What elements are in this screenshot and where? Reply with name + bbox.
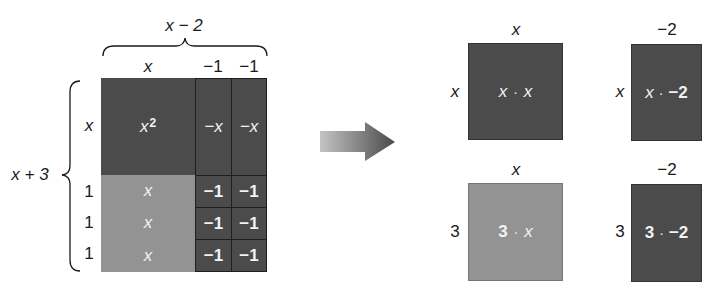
box2-side-label: x bbox=[611, 82, 629, 102]
column-label-neg1-b: −1 bbox=[231, 57, 267, 77]
product-box-x-times-x: x · x bbox=[468, 43, 563, 140]
box4-side-label: 3 bbox=[611, 222, 629, 242]
box1-top-label: x bbox=[500, 20, 532, 40]
row-label-1a: 1 bbox=[80, 182, 98, 202]
product-box-x-times-neg2: x · −2 bbox=[631, 44, 702, 141]
tile-neg-x: −x bbox=[231, 78, 267, 176]
row-label-x: x bbox=[80, 116, 98, 136]
product-box-3-times-neg2: 3 · −2 bbox=[631, 184, 702, 282]
top-brace bbox=[100, 34, 272, 58]
tile-neg-one: −1 bbox=[231, 175, 267, 208]
side-brace bbox=[58, 78, 82, 274]
tile-x-squared: x2 bbox=[101, 78, 195, 176]
column-label-neg1-a: −1 bbox=[195, 57, 231, 77]
area-grid: x2 −x −x x −1 −1 x −1 −1 x bbox=[101, 78, 267, 272]
tile-x: x bbox=[101, 175, 195, 208]
tile-neg-one: −1 bbox=[195, 239, 232, 272]
box3-side-label: 3 bbox=[446, 222, 464, 242]
row-label-1c: 1 bbox=[80, 244, 98, 264]
tile-x: x bbox=[101, 239, 195, 272]
box4-top-label: −2 bbox=[645, 160, 689, 180]
tile-neg-one: −1 bbox=[195, 207, 232, 240]
box2-top-label: −2 bbox=[645, 20, 689, 40]
box1-side-label: x bbox=[446, 82, 464, 102]
top-brace-label: x − 2 bbox=[144, 16, 224, 36]
side-brace-label: x + 3 bbox=[2, 165, 58, 185]
column-label-x: x bbox=[128, 57, 168, 77]
tile-neg-one: −1 bbox=[231, 239, 267, 272]
row-label-1b: 1 bbox=[80, 213, 98, 233]
box3-top-label: x bbox=[500, 160, 532, 180]
right-arrow-icon bbox=[318, 122, 398, 162]
tile-neg-x: −x bbox=[195, 78, 232, 176]
product-box-3-times-x: 3 · x bbox=[468, 183, 563, 281]
tile-neg-one: −1 bbox=[231, 207, 267, 240]
tile-neg-one: −1 bbox=[195, 175, 232, 208]
tile-x: x bbox=[101, 207, 195, 240]
